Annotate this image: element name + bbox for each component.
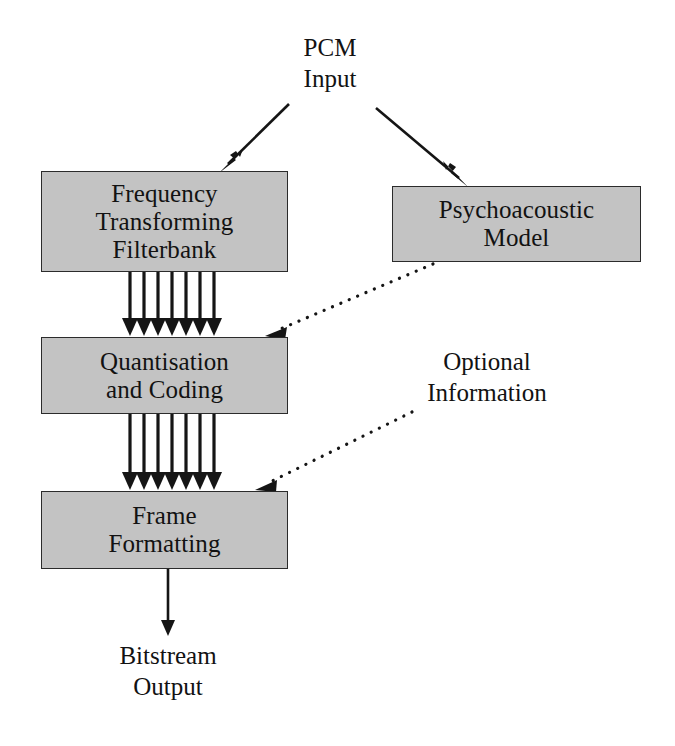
block-quantisation-and-coding: Quantisation and Coding [41, 337, 288, 414]
block-filterbank-line3: Filterbank [113, 236, 217, 264]
block-filterbank-line2: Transforming [96, 208, 234, 236]
dotted-arrow-optional-info-to-frame [255, 412, 412, 492]
block-frequency-transforming-filterbank: Frequency Transforming Filterbank [41, 171, 288, 272]
block-psychoacoustic-model: Psychoacoustic Model [392, 186, 641, 262]
label-optional-information-line2: Information [372, 378, 602, 409]
block-frame-formatting: Frame Formatting [41, 491, 288, 569]
arrow-pcm-to-psychoacoustic [376, 108, 468, 187]
block-psychoacoustic-line2: Model [484, 224, 550, 252]
block-quantisation-line2: and Coding [106, 376, 223, 404]
label-optional-information-line1: Optional [372, 347, 602, 378]
label-bitstream-output-line2: Output [78, 672, 258, 703]
bus-filterbank-to-quantisation [122, 272, 222, 336]
label-bitstream-output-line1: Bitstream [78, 641, 258, 672]
block-frame-line1: Frame [132, 502, 196, 530]
label-pcm-input-line1: PCM [240, 33, 420, 64]
encoder-block-diagram: PCM Input Optional Information Bitstream… [0, 0, 675, 746]
block-filterbank-line1: Frequency [111, 180, 217, 208]
bus-quantisation-to-frame [122, 414, 222, 490]
arrow-pcm-to-filterbank [219, 104, 289, 173]
block-frame-line2: Formatting [108, 530, 220, 558]
dotted-arrow-psychoacoustic-to-quantisation [265, 264, 433, 340]
label-pcm-input: PCM Input [240, 33, 420, 94]
label-bitstream-output: Bitstream Output [78, 641, 258, 702]
label-optional-information: Optional Information [372, 347, 602, 408]
block-quantisation-line1: Quantisation [100, 348, 229, 376]
label-pcm-input-line2: Input [240, 64, 420, 95]
arrow-frame-to-bitstream [161, 569, 175, 636]
block-psychoacoustic-line1: Psychoacoustic [439, 196, 595, 224]
